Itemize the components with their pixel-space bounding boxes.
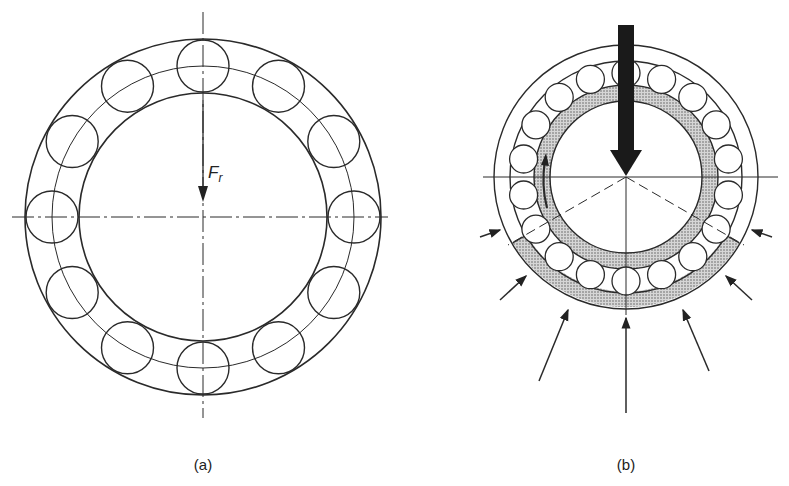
force-label: Fr	[208, 163, 222, 185]
bearing-diagram	[0, 0, 789, 486]
radial-load-arrow-shaft	[618, 25, 634, 153]
force-subscript: r	[218, 171, 222, 185]
force-symbol: F	[208, 163, 218, 182]
arrow-down-icon	[198, 186, 208, 202]
figure-b-roller-bearing	[480, 25, 778, 413]
caption-b: (b)	[617, 456, 635, 473]
figure-a-ball-bearing	[12, 12, 388, 418]
caption-a: (a)	[194, 456, 212, 473]
big-arrow-down-icon	[610, 150, 642, 176]
